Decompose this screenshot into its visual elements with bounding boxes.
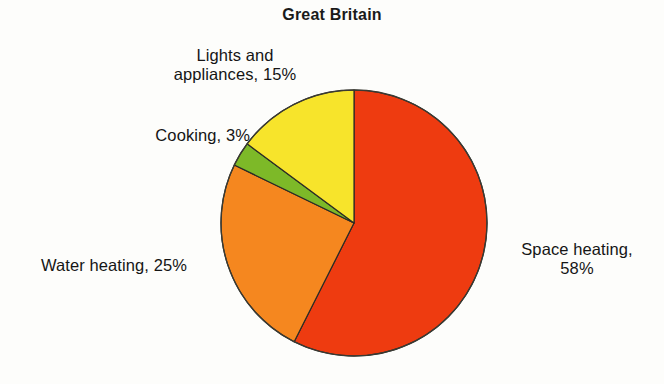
pie-chart-graphic: Space heating, 58%Water heating, 25%Cook… [0,0,664,384]
pie-slices-group: Space heating, 58%Water heating, 25%Cook… [221,90,487,356]
slice-label-cooking: Cooking, 3% [100,126,250,145]
slice-label-lights-and-appliances: Lights and appliances, 15% [145,46,325,85]
slice-label-water-heating: Water heating, 25% [14,256,214,275]
slice-label-space-heating: Space heating, 58% [497,240,657,279]
pie-chart-figure: Great Britain Space heating, 58%Water he… [0,0,664,384]
